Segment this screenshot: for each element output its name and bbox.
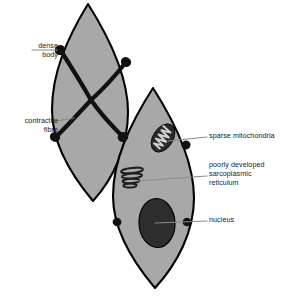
label-contractile-fibre: contractile fibre — [2, 116, 58, 134]
label-sarcoplasmic-reticulum: poorly developed sarcoplasmic reticulum — [209, 160, 285, 187]
diagram-canvas: dense body contractile fibre sparse mito… — [0, 0, 286, 299]
label-nucleus: nucleus — [209, 215, 279, 224]
label-dense-body: dense body — [6, 41, 58, 59]
label-sparse-mitochondria: sparse mitochondria — [209, 131, 285, 140]
